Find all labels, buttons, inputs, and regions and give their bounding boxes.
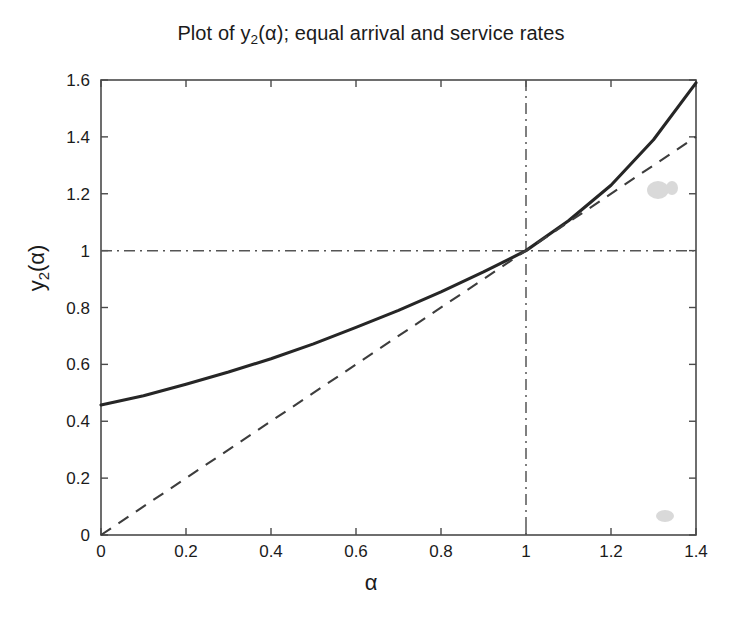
x-tick-label: 0.8 (429, 542, 453, 561)
x-tick-label: 0.6 (344, 542, 368, 561)
y-tick-label: 0.4 (66, 412, 90, 431)
y-tick-label: 0.6 (66, 355, 90, 374)
y-tick-label: 1.4 (66, 128, 90, 147)
x-tick-label: 0 (96, 542, 105, 561)
x-tick-label: 1 (521, 542, 530, 561)
y-tick-label: 1.2 (66, 185, 90, 204)
main-curve-series (101, 83, 696, 405)
figure-canvas: Plot of y2(α); equal arrival and service… (0, 0, 742, 619)
x-tick-label: 1.2 (599, 542, 623, 561)
axis-frame (101, 80, 696, 535)
scan-artifacts (647, 181, 678, 522)
y-tick-label: 0 (81, 526, 90, 545)
y-tick-label: 0.2 (66, 469, 90, 488)
y-tick-label: 1.6 (66, 71, 90, 90)
tick-marks (101, 80, 696, 535)
y-tick-label: 0.8 (66, 299, 90, 318)
x-tick-label: 0.2 (174, 542, 198, 561)
axis-box (101, 80, 696, 535)
y-tick-label: 1 (81, 242, 90, 261)
identity-line-series (101, 137, 696, 535)
data-series-layer (101, 83, 696, 535)
reference-lines (101, 80, 696, 535)
x-tick-label: 0.4 (259, 542, 283, 561)
x-tick-label: 1.4 (684, 542, 708, 561)
plot-area: 00.20.40.60.811.21.400.20.40.60.811.21.4… (0, 0, 742, 619)
